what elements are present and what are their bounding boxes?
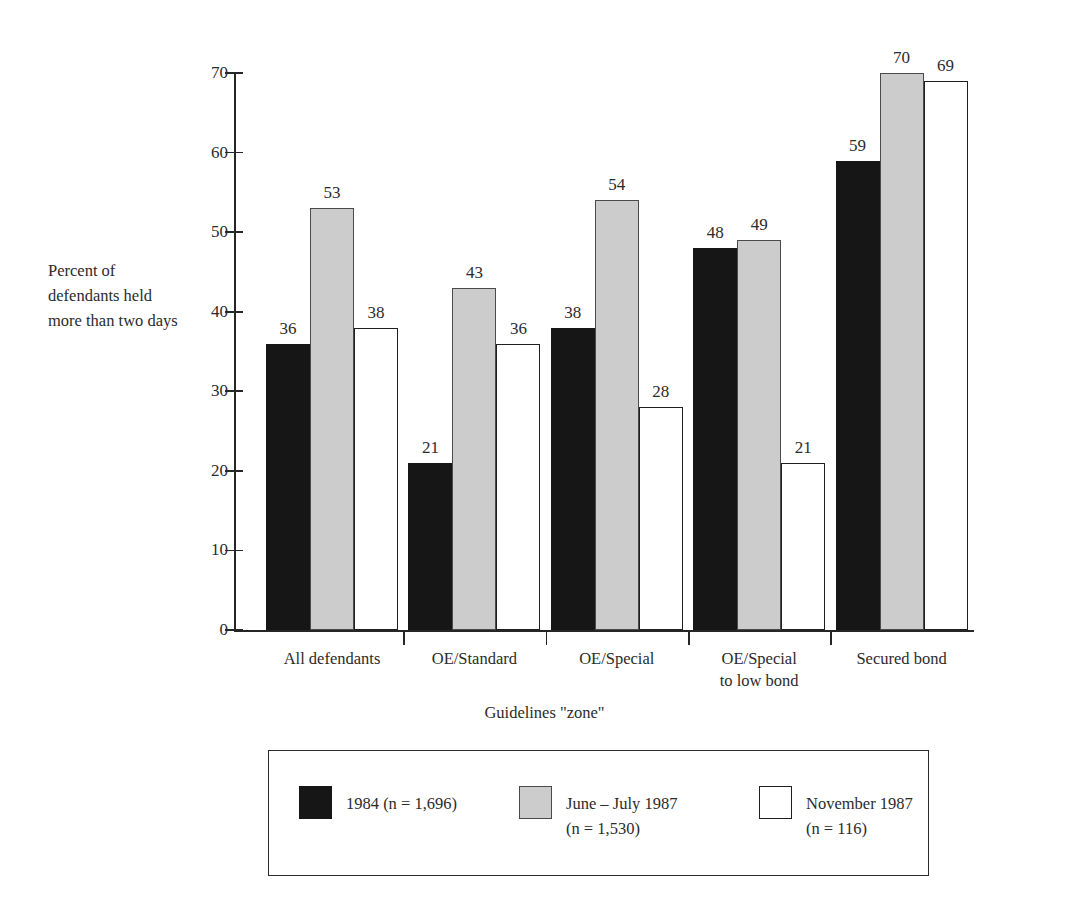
legend: 1984 (n = 1,696)June – July 1987 (n = 1,…	[268, 750, 929, 876]
bar-3-1	[737, 240, 781, 630]
legend-item-label: 1984 (n = 1,696)	[346, 785, 457, 816]
x-axis-tick	[688, 630, 690, 645]
x-axis-tick	[403, 630, 405, 645]
bar-value-label: 54	[586, 176, 648, 193]
y-axis-tick-label: 0	[188, 621, 228, 638]
y-axis-tick-label: 20	[188, 462, 228, 479]
bar-value-label: 38	[345, 304, 407, 321]
bar-1-0	[408, 463, 452, 630]
x-axis-line	[234, 630, 974, 632]
bar-2-2	[639, 407, 683, 630]
bar-value-label: 69	[915, 57, 977, 74]
bar-4-1	[880, 73, 924, 630]
bar-value-label: 21	[772, 439, 834, 456]
gray-filled-square-icon	[519, 786, 552, 819]
bar-4-2	[924, 81, 968, 630]
white-outlined-square-icon	[759, 786, 792, 819]
legend-item-label: November 1987 (n = 116)	[806, 785, 913, 841]
legend-item-2: November 1987 (n = 116)	[759, 785, 913, 841]
bar-0-2	[354, 328, 398, 630]
legend-item-1: June – July 1987 (n = 1,530)	[519, 785, 677, 841]
bar-value-label: 43	[443, 264, 505, 281]
y-axis-tick-label: 50	[188, 223, 228, 240]
bar-value-label: 36	[487, 320, 549, 337]
x-axis-tick	[830, 630, 832, 645]
legend-item-0: 1984 (n = 1,696)	[299, 785, 457, 819]
bar-2-1	[595, 200, 639, 630]
plot-area: 010203040506070 365338214336385428484921…	[234, 73, 974, 630]
bar-0-1	[310, 208, 354, 630]
y-axis-title: Percent of defendants held more than two…	[48, 258, 218, 333]
y-axis-tick-label: 10	[188, 541, 228, 558]
bar-0-0	[266, 344, 310, 630]
bar-1-2	[496, 344, 540, 630]
bar-2-0	[551, 328, 595, 630]
x-axis-category-label: Secured bond	[812, 648, 992, 670]
bar-1-1	[452, 288, 496, 630]
bar-3-2	[781, 463, 825, 630]
bar-value-label: 53	[301, 184, 363, 201]
y-axis-tick-label: 30	[188, 382, 228, 399]
bar-value-label: 28	[630, 383, 692, 400]
y-axis-tick-label: 70	[188, 64, 228, 81]
bar-value-label: 49	[728, 216, 790, 233]
x-axis-tick	[546, 630, 548, 645]
legend-item-label: June – July 1987 (n = 1,530)	[566, 785, 677, 841]
x-axis-title: Guidelines "zone"	[0, 703, 1089, 723]
y-axis-tick-label: 60	[188, 144, 228, 161]
bar-3-0	[693, 248, 737, 630]
y-axis-line	[234, 73, 236, 630]
y-axis-tick-label: 40	[188, 303, 228, 320]
black-filled-square-icon	[299, 786, 332, 819]
bar-4-0	[836, 161, 880, 630]
